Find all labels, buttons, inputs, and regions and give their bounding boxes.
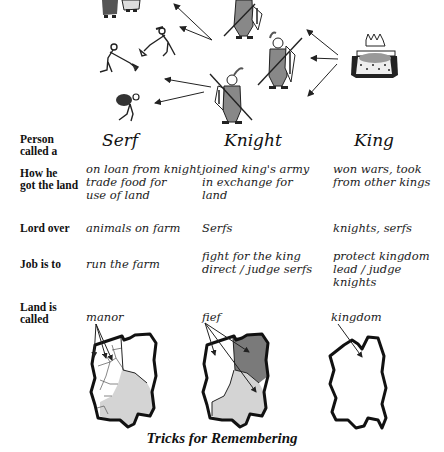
arrows-king-to-knights (307, 30, 338, 96)
serf-carrying-sack-icon (116, 94, 139, 121)
row-label-lord-over: Lord over (20, 222, 70, 234)
king-icon (351, 34, 398, 78)
column-heading-knight: Knight (224, 130, 282, 150)
row-label-line: called a (20, 145, 57, 157)
cell-serf-lord-over: animals on farm (86, 222, 180, 235)
row-label-how-got-land: How he got the land (20, 167, 78, 191)
knight-icon (210, 68, 252, 124)
column-heading-serf: Serf (102, 130, 138, 150)
row-label-line: How he (20, 167, 78, 179)
cell-king-lord-over: knights, serfs (333, 222, 412, 235)
knight-icon (258, 33, 302, 89)
cell-line: direct / judge serfs (202, 263, 312, 276)
cell-knight-job: fight for the king direct / judge serfs (202, 250, 312, 276)
fief-map (203, 323, 268, 427)
label-manor: manor (86, 311, 124, 324)
row-label-line: Person (20, 133, 57, 145)
row-label-line: Job is to (20, 258, 61, 270)
cell-serf-job: run the farm (86, 258, 160, 271)
serf-hoeing-icon (100, 44, 138, 72)
row-label-job: Job is to (20, 258, 61, 270)
row-label-land-called: Land is called (20, 301, 57, 325)
caption: Tricks for Remembering (0, 430, 444, 447)
row-label-line: Land is (20, 301, 57, 313)
row-label-person-called: Person called a (20, 133, 57, 157)
column-heading-king: King (354, 130, 394, 150)
cell-line: land (202, 189, 309, 202)
cell-line: use of land (86, 189, 201, 202)
serf-digging-icon (140, 27, 175, 56)
cell-knight-lord-over: Serfs (202, 222, 232, 235)
label-kingdom: kingdom (331, 311, 382, 324)
arrows-knight-to-serfs (155, 4, 212, 103)
cell-serf-how-got-land: on loan from knight trade food for use o… (86, 163, 201, 202)
kingdom-map (330, 324, 386, 428)
cell-knight-how-got-land: joined king's army in exchange for land (202, 163, 309, 202)
knight-icon (224, 0, 262, 39)
label-fief: fief (202, 311, 221, 324)
cell-king-job: protect kingdom lead / judge knights (333, 250, 444, 289)
row-label-line: Lord over (20, 222, 70, 234)
cell-king-how-got-land: won wars, took from other kings (333, 163, 430, 189)
row-label-line: called (20, 313, 57, 325)
serf-couple-icon (102, 0, 140, 18)
row-label-line: got the land (20, 179, 78, 191)
cell-line: lead / judge knights (333, 263, 444, 289)
cell-line: from other kings (333, 176, 430, 189)
manor-map (91, 324, 156, 427)
